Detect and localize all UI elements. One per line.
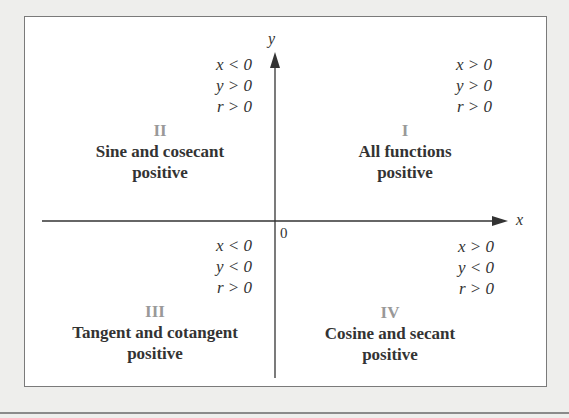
condition: r > 0	[392, 278, 494, 299]
x-axis-label: x	[516, 211, 523, 229]
condition: r > 0	[390, 96, 492, 117]
y-arrow-icon	[270, 52, 280, 68]
quadrant-iv-label: IV Cosine and secant positive	[290, 302, 490, 365]
origin-label: 0	[280, 225, 288, 242]
condition: y > 0	[390, 75, 492, 96]
quadrant-ii-label: II Sine and cosecant positive	[60, 120, 260, 183]
quadrant-ii-conditions: x < 0 y > 0 r > 0	[150, 54, 252, 117]
quadrant-i-label: I All functions positive	[305, 120, 505, 183]
quadrant-i-conditions: x > 0 y > 0 r > 0	[390, 54, 492, 117]
quadrant-numeral: IV	[290, 302, 490, 323]
quadrant-iii-label: III Tangent and cotangent positive	[40, 301, 270, 364]
condition: y < 0	[150, 256, 252, 277]
quadrant-title: All functions	[305, 141, 505, 162]
quadrant-title: Tangent and cotangent	[40, 322, 270, 343]
condition: r > 0	[150, 96, 252, 117]
quadrant-iv-conditions: x > 0 y < 0 r > 0	[392, 236, 494, 299]
quadrant-subtitle: positive	[305, 162, 505, 183]
quadrant-subtitle: positive	[60, 162, 260, 183]
quadrant-numeral: I	[305, 120, 505, 141]
condition: r > 0	[150, 277, 252, 298]
condition: y > 0	[150, 75, 252, 96]
quadrant-title: Sine and cosecant	[60, 141, 260, 162]
quadrant-numeral: III	[40, 301, 270, 322]
condition: y < 0	[392, 257, 494, 278]
quadrant-title: Cosine and secant	[290, 323, 490, 344]
quadrant-subtitle: positive	[290, 344, 490, 365]
quadrant-subtitle: positive	[40, 343, 270, 364]
condition: x < 0	[150, 235, 252, 256]
y-axis-label: y	[268, 30, 275, 48]
condition: x < 0	[150, 54, 252, 75]
condition: x > 0	[392, 236, 494, 257]
x-arrow-icon	[492, 216, 508, 226]
quadrant-numeral: II	[60, 120, 260, 141]
quadrant-iii-conditions: x < 0 y < 0 r > 0	[150, 235, 252, 298]
condition: x > 0	[390, 54, 492, 75]
